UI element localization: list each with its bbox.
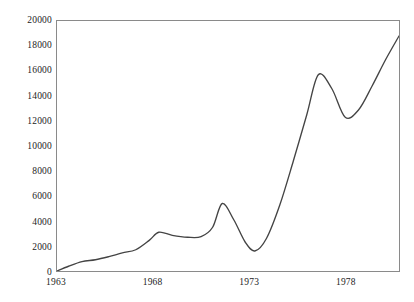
x-axis-label: 1978 [316,277,376,288]
x-axis-label: 1968 [123,277,183,288]
x-axis-label: 1973 [219,277,279,288]
line-chart-figure: 2000018000160001400012000100008000600040… [0,0,414,302]
clipped-caption [44,293,374,302]
x-axis-tick-labels: 1963196819731978 [0,0,414,302]
x-axis-label: 1963 [26,277,86,288]
